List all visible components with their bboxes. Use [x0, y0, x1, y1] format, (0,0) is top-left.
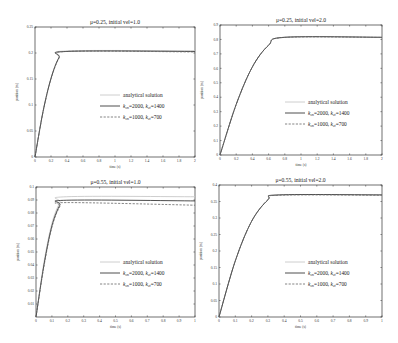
legend: analytical solutionkcn=2000, kct=1400kcn… — [100, 92, 165, 121]
subplot-2: μ=0.25, initial vel=2.000.20.40.60.811.2… — [200, 17, 383, 167]
x-tick-label: 2 — [381, 157, 383, 161]
y-tick-label: 0 — [216, 153, 218, 157]
y-tick-label: 0.05 — [28, 250, 34, 254]
subplot-title: μ=0.55, initial vel=2.0 — [275, 177, 325, 183]
x-tick-label: 1.4 — [331, 157, 336, 161]
x-tick-label: 0.8 — [283, 157, 288, 161]
x-tick-label: 0.1 — [233, 319, 238, 323]
y-tick-label: 0.15 — [27, 77, 33, 81]
x-axis-label: time (s) — [110, 325, 122, 329]
y-tick-label: 0.08 — [28, 211, 34, 215]
series-line — [36, 203, 195, 317]
y-tick-label: 0 — [31, 155, 33, 159]
y-tick-label: 0.1 — [30, 185, 35, 189]
legend-label: kcn=1000, kct=700 — [308, 281, 347, 288]
y-tick-label: 0.01 — [28, 302, 34, 306]
x-tick-label: 0.6 — [266, 157, 271, 161]
x-tick-label: 0.9 — [177, 319, 182, 323]
series-line — [220, 37, 382, 155]
series-line — [35, 51, 195, 157]
x-tick-label: 1.2 — [315, 157, 320, 161]
y-tick-label: 0.09 — [28, 198, 34, 202]
subplot-title: μ=0.25, initial vel=1.0 — [90, 19, 140, 25]
series-line — [36, 196, 195, 317]
y-tick-label: 0.1 — [29, 103, 34, 107]
y-tick-label: 0.2 — [214, 124, 219, 128]
x-tick-label: 0.6 — [129, 319, 134, 323]
x-axis-label: time (s) — [295, 163, 307, 167]
x-axis-label: time (s) — [109, 165, 121, 169]
y-tick-label: 0 — [215, 315, 217, 319]
series-line — [220, 37, 382, 155]
legend-label: analytical solution — [123, 259, 163, 265]
x-tick-label: 0.4 — [97, 319, 102, 323]
x-tick-label: 0.8 — [161, 319, 166, 323]
y-tick-label: 0.25 — [27, 25, 33, 29]
y-tick-label: 0.3 — [213, 216, 218, 220]
x-tick-label: 1.6 — [161, 159, 166, 163]
subplot-title: μ=0.25, initial vel=2.0 — [276, 17, 326, 23]
legend-label: kcn=2000, kct=1400 — [308, 270, 350, 277]
y-tick-label: 0.04 — [28, 263, 34, 267]
x-tick-label: 0.5 — [113, 319, 118, 323]
x-tick-label: 0.2 — [49, 159, 54, 163]
x-axis-label: time (s) — [295, 325, 307, 329]
legend: analytical solutionkcn=2000, kct=1400kcn… — [285, 99, 350, 128]
x-tick-label: 0.6 — [81, 159, 86, 163]
x-tick-label: 1.8 — [177, 159, 182, 163]
x-tick-label: 0.7 — [331, 319, 336, 323]
axes-frame — [220, 25, 382, 155]
y-tick-label: 0.9 — [214, 23, 219, 27]
subplot-4: μ=0.55, initial vel=2.000.10.20.30.40.50… — [199, 177, 383, 329]
y-tick-label: 0.07 — [28, 224, 34, 228]
x-tick-label: 0 — [219, 157, 221, 161]
series-line — [219, 195, 382, 317]
x-tick-label: 0.8 — [97, 159, 102, 163]
series-line — [36, 200, 195, 317]
y-tick-label: 0.15 — [211, 266, 217, 270]
y-tick-label: 0.4 — [214, 95, 219, 99]
y-axis-label: position (m) — [199, 241, 203, 259]
legend: analytical solutionkcn=2000, kct=1400kcn… — [100, 259, 165, 288]
series-line — [220, 37, 382, 155]
series-line — [219, 195, 382, 317]
x-tick-label: 0.4 — [65, 159, 70, 163]
figure-svg: μ=0.25, initial vel=1.000.20.40.60.811.2… — [0, 0, 398, 343]
x-tick-label: 1 — [300, 157, 302, 161]
y-tick-label: 0.2 — [29, 51, 34, 55]
y-tick-label: 0.06 — [28, 237, 34, 241]
y-tick-label: 0.3 — [214, 110, 219, 114]
x-tick-label: 1.6 — [347, 157, 352, 161]
legend-label: analytical solution — [308, 259, 348, 265]
y-tick-label: 0.25 — [211, 233, 217, 237]
legend-label: kcn=1000, kct=700 — [123, 281, 162, 288]
series-line — [35, 50, 195, 157]
y-tick-label: 0.05 — [211, 299, 217, 303]
x-tick-label: 0.2 — [234, 157, 239, 161]
legend-label: kcn=2000, kct=1400 — [123, 270, 165, 277]
x-tick-label: 1 — [381, 319, 383, 323]
x-tick-label: 0 — [218, 319, 220, 323]
y-tick-label: 0.5 — [214, 81, 219, 85]
x-tick-label: 2 — [194, 159, 196, 163]
x-tick-label: 0.4 — [250, 157, 255, 161]
y-tick-label: 0.6 — [214, 67, 219, 71]
x-tick-label: 0.1 — [50, 319, 55, 323]
x-tick-label: 0.4 — [282, 319, 287, 323]
subplot-3: μ=0.55, initial vel=1.000.10.20.30.40.50… — [16, 179, 196, 329]
subplot-1: μ=0.25, initial vel=1.000.20.40.60.811.2… — [15, 19, 196, 169]
x-tick-label: 0.9 — [363, 319, 368, 323]
y-axis-label: position (m) — [15, 82, 19, 100]
y-tick-label: 0.35 — [211, 200, 217, 204]
y-tick-label: 0.8 — [214, 38, 219, 42]
y-tick-label: 0.05 — [27, 129, 33, 133]
x-tick-label: 0.7 — [145, 319, 150, 323]
y-tick-label: 0.1 — [213, 282, 218, 286]
x-tick-label: 1.8 — [364, 157, 369, 161]
legend: analytical solutionkcn=2000, kct=1400kcn… — [285, 259, 350, 288]
y-tick-label: 0.1 — [214, 139, 219, 143]
y-tick-label: 0.2 — [213, 249, 218, 253]
y-tick-label: 0.4 — [213, 183, 218, 187]
legend-label: kcn=1000, kct=700 — [308, 121, 347, 128]
x-tick-label: 0.2 — [66, 319, 71, 323]
